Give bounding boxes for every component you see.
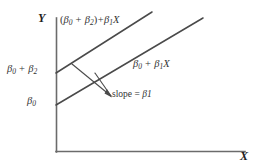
y-axis-label: Y xyxy=(38,12,45,24)
base-beta0-subscript: 0 xyxy=(32,99,36,108)
lower-eq-beta0-subscript: 0 xyxy=(138,62,142,71)
y-intercept-shifted-label: β0 + β2 xyxy=(7,64,37,76)
upper-line-equation-label: (β0 + β2)+β1X xyxy=(60,15,119,27)
lower-eq-plus: + xyxy=(145,58,152,69)
shifted-beta2-subscript: 2 xyxy=(33,67,37,76)
slope-annotation-label: slope = β1 xyxy=(112,90,152,100)
x-axis-label: X xyxy=(240,150,248,162)
upper-eq-beta0-subscript: 0 xyxy=(69,18,73,27)
figure-canvas xyxy=(0,0,262,168)
slope-arrowhead-icon xyxy=(105,89,113,98)
slope-equals: = xyxy=(134,89,139,99)
upper-eq-plus-1: + xyxy=(75,14,82,25)
upper-eq-x: X xyxy=(113,14,119,25)
slope-word: slope xyxy=(112,89,132,99)
y-intercept-base-label: β0 xyxy=(27,96,36,108)
regression-lines-figure: Y X (β0 + β2)+β1X β0 + β1X β0 + β2 β0 sl… xyxy=(0,0,262,168)
lower-eq-x: X xyxy=(163,58,169,69)
lower-line-equation-label: β0 + β1X xyxy=(133,59,170,71)
shifted-beta0-subscript: 0 xyxy=(12,67,16,76)
slope-beta-subscript: 1 xyxy=(147,89,152,99)
shifted-plus: + xyxy=(19,63,26,74)
